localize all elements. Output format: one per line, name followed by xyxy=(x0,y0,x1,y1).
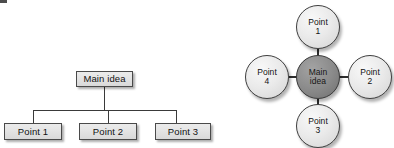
radial-node-point-2-line2: 2 xyxy=(368,77,373,86)
radial-node-point-2[interactable]: Point 2 xyxy=(348,55,392,99)
diagram-canvas: Main idea Point 1 Point 2 Point 3 Point … xyxy=(0,0,394,148)
radial-node-main-idea-line2: idea xyxy=(310,77,326,86)
radial-node-main-idea[interactable]: Main idea xyxy=(296,55,340,99)
radial-node-point-3[interactable]: Point 3 xyxy=(296,104,340,148)
radial-nodes: Point 1 Point 4 Point 2 Point 3 Main ide… xyxy=(0,0,394,148)
radial-node-point-1-line2: 1 xyxy=(316,27,321,36)
radial-node-point-3-line2: 3 xyxy=(316,126,321,135)
radial-node-point-1[interactable]: Point 1 xyxy=(296,5,340,49)
radial-node-point-4-line2: 4 xyxy=(265,77,270,86)
radial-node-point-4[interactable]: Point 4 xyxy=(245,55,289,99)
